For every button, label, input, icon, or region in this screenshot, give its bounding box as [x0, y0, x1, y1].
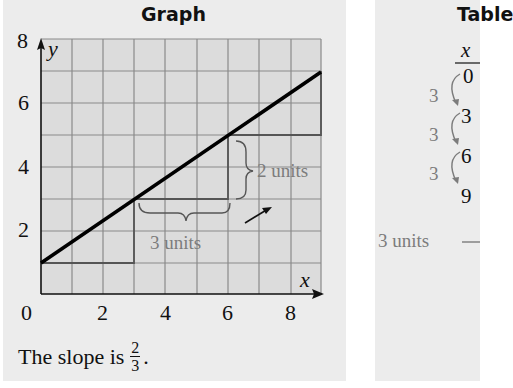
x-tick-0: 0 — [21, 300, 32, 326]
slope-caption: The slope is 2 3 . — [18, 340, 149, 373]
table-x-value-2: 6 — [461, 144, 472, 169]
y-tick-4: 4 — [18, 154, 29, 180]
caption-period: . — [143, 344, 149, 370]
slope-numerator: 2 — [131, 340, 139, 355]
x-tick-6: 6 — [222, 300, 233, 326]
table-x-value-1: 3 — [461, 104, 472, 129]
slope-fraction: 2 3 — [130, 340, 140, 373]
run-label: 3 units — [150, 232, 201, 254]
table-x-value-3: 9 — [461, 184, 472, 209]
rise-label: 2 units — [257, 160, 308, 182]
step-arrow-head-icon — [452, 177, 459, 184]
x-tick-8: 8 — [285, 300, 296, 326]
table-step-label: 3 — [429, 163, 439, 185]
table-step-label: 3 — [429, 124, 439, 146]
y-tick-8: 8 — [17, 28, 28, 54]
y-axis-label: y — [48, 36, 58, 62]
step-arrow-head-icon — [452, 99, 459, 106]
slope-denominator: 3 — [131, 358, 139, 373]
y-tick-6: 6 — [18, 90, 29, 116]
step-arrow-head-icon — [452, 138, 459, 145]
x-tick-2: 2 — [97, 300, 108, 326]
x-axis-label: x — [300, 267, 310, 293]
caption-text: The slope is — [18, 344, 124, 370]
table-column-header-x: x — [461, 38, 470, 63]
table-step-label: 3 — [429, 85, 439, 107]
table-title: Table — [457, 3, 513, 25]
table-x-value-0: 0 — [463, 64, 474, 89]
x-tick-4: 4 — [160, 300, 171, 326]
table-step-arrows — [452, 74, 460, 181]
table-run-label: 3 units — [378, 230, 429, 252]
y-tick-2: 2 — [18, 217, 29, 243]
